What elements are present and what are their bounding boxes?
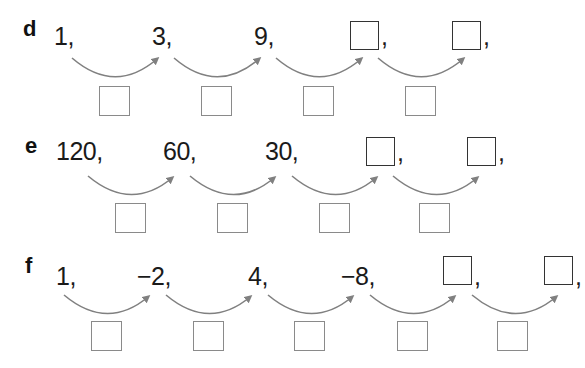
operation-box[interactable] xyxy=(419,203,450,233)
exercise-e: e 120, 60, 30, , , xyxy=(0,130,585,245)
operation-box[interactable] xyxy=(303,86,334,116)
operation-box[interactable] xyxy=(319,203,350,233)
operation-box[interactable] xyxy=(91,321,122,351)
operation-box[interactable] xyxy=(497,321,528,351)
operation-box[interactable] xyxy=(99,86,130,116)
operation-box[interactable] xyxy=(201,86,232,116)
step-arrows xyxy=(0,0,585,125)
operation-box[interactable] xyxy=(405,86,436,116)
operation-box[interactable] xyxy=(193,321,224,351)
operation-box[interactable] xyxy=(115,203,146,233)
operation-box[interactable] xyxy=(397,321,428,351)
step-arrows xyxy=(0,130,585,245)
exercise-d: d 1, 3, 9, , , xyxy=(0,0,585,125)
operation-box[interactable] xyxy=(294,321,325,351)
exercise-f: f 1, −2, 4, −8, , , xyxy=(0,245,585,368)
operation-box[interactable] xyxy=(217,203,248,233)
